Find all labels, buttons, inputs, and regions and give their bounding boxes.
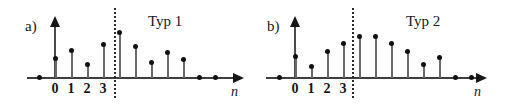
panel-b-label: b) (267, 19, 280, 34)
panel-b: b) Typ 2 n 0 1 2 3 (258, 0, 517, 106)
panel-b-stem-marker (405, 49, 410, 54)
panel-b-stem (295, 56, 297, 78)
panel-a-zero-sample (197, 75, 202, 80)
panel-a-x-axis (27, 77, 235, 79)
panel-b-axis-label: n (474, 85, 481, 99)
panel-a-stem-marker (85, 62, 90, 67)
panel-a-y-axis-arrow-icon (50, 16, 60, 27)
panel-a-x-axis-arrow-icon (233, 73, 244, 83)
panel-a-tick-label-3: 3 (96, 82, 110, 96)
panel-a-tick-label-2: 2 (80, 82, 94, 96)
panel-a-stem (135, 46, 137, 78)
panel-a-stem-marker (133, 44, 138, 49)
panel-b-zero-sample (469, 75, 474, 80)
panel-a-symmetry-line (114, 8, 116, 98)
panel-b-stem (439, 57, 441, 78)
panel-b-x-axis-arrow-icon (476, 73, 487, 83)
panel-a-stem (103, 44, 105, 78)
panel-b-stem-marker (421, 62, 426, 67)
panel-b-tick-label-2: 2 (320, 82, 334, 96)
panel-b-stem-marker (373, 34, 378, 39)
panel-a-label: a) (25, 19, 37, 34)
panel-b-stem (407, 51, 409, 78)
panel-b-stem (375, 36, 377, 78)
panel-a-axis-label: n (231, 85, 238, 99)
panel-a-zero-sample (213, 75, 218, 80)
panel-b-stem-marker (389, 41, 394, 46)
panel-a-stem (71, 50, 73, 78)
panel-b-stem-marker (309, 64, 314, 69)
panel-a-stem-marker (117, 30, 122, 35)
panel-b-tick-label-1: 1 (304, 82, 318, 96)
panel-a-tick-label-1: 1 (64, 82, 78, 96)
panel-b-y-axis-arrow-icon (290, 16, 300, 27)
panel-b-tick-label-3: 3 (336, 82, 350, 96)
panel-a-stem-marker (181, 57, 186, 62)
panel-b-stem-marker (437, 55, 442, 60)
panel-b-stem (391, 43, 393, 78)
panel-a-tick-label-0: 0 (48, 82, 62, 96)
panel-a-stem (167, 52, 169, 78)
panel-a-stem-marker (165, 50, 170, 55)
panel-b-stem (343, 43, 345, 78)
panel-b-stem-marker (357, 34, 362, 39)
panel-b-title: Typ 2 (406, 14, 440, 29)
panel-b-stem-marker (341, 41, 346, 46)
panel-b-x-axis (266, 77, 478, 79)
panel-a-stem (119, 32, 121, 78)
panel-b-stem (327, 51, 329, 78)
panel-a-stem-marker (149, 60, 154, 65)
panel-a: a) Typ 1 n 0 1 2 3 (0, 0, 258, 106)
panel-b-stem-marker (325, 49, 330, 54)
panel-b-zero-sample (453, 75, 458, 80)
panel-b-stem (359, 36, 361, 78)
panel-a-stem-marker (53, 56, 58, 61)
panel-b-symmetry-line (352, 8, 354, 98)
panel-b-zero-sample (277, 75, 282, 80)
panel-a-stem-marker (69, 48, 74, 53)
panel-a-stem-marker (101, 42, 106, 47)
panel-a-zero-sample (37, 75, 42, 80)
panel-b-stem-marker (293, 54, 298, 59)
panel-b-tick-label-0: 0 (288, 82, 302, 96)
panel-a-title: Typ 1 (148, 14, 182, 29)
figure-root: a) Typ 1 n 0 1 2 3 (0, 0, 517, 106)
panel-a-stem (55, 58, 57, 78)
